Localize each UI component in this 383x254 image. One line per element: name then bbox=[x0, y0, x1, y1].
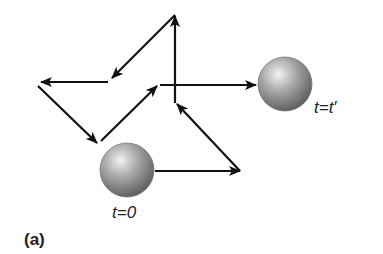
arrow-segment-2 bbox=[177, 104, 240, 171]
label-end-time: t=t′ bbox=[314, 98, 337, 118]
random-walk-diagram bbox=[0, 0, 383, 254]
path-arrows bbox=[38, 15, 256, 171]
label-start-time: t=0 bbox=[112, 203, 136, 223]
arrow-segment-4 bbox=[112, 15, 175, 78]
sphere-end bbox=[258, 57, 312, 111]
sphere-start bbox=[100, 143, 154, 197]
arrow-segment-6 bbox=[38, 86, 97, 143]
panel-label: (a) bbox=[24, 230, 45, 250]
arrow-segment-7 bbox=[101, 86, 157, 141]
